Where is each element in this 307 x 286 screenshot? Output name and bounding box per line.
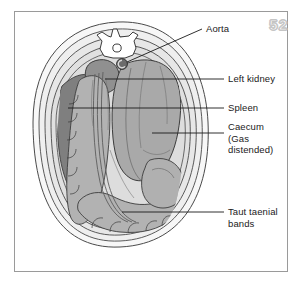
aorta-group [117,59,128,70]
vertebra-group [97,29,138,58]
figure-root: 52 Aorta Left kidney Spleen Caecum (Gas … [0,0,307,286]
label-spleen: Spleen [228,102,258,114]
page-number: 52 [269,16,288,33]
label-aorta: Aorta [206,23,229,35]
spinal-canal [113,44,121,52]
label-taut-taenial-bands: Taut taenial bands [228,206,278,229]
vertebra-body [97,29,138,58]
label-left-kidney: Left kidney [228,73,275,85]
label-caecum: Caecum (Gas distended) [228,121,273,156]
